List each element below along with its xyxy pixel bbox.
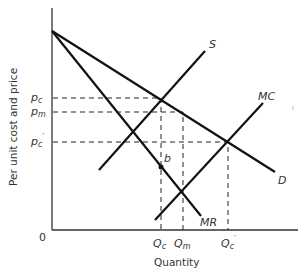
demand-label: D (278, 174, 286, 187)
price-label-pc-prime: pc′ (30, 133, 44, 149)
marginal-cost-label: MC (258, 90, 275, 103)
marginal-revenue-label: MR (200, 216, 217, 229)
price-label-pm: pm (30, 105, 46, 119)
origin-label: 0 (39, 231, 46, 244)
marginal-revenue-curve (52, 31, 201, 216)
cartel-monopoly-diagram: b S MC D MR pc pm pc′ Qc Qm Qc′ 0 Quanti… (0, 0, 308, 276)
x-axis-label: Quantity (154, 256, 199, 268)
quantity-label-Qm: Qm (174, 237, 191, 251)
supply-label: S (209, 38, 216, 51)
quantity-label-Qc-prime: Qc′ (221, 235, 236, 251)
marginal-cost-curve (155, 103, 263, 220)
price-label-pc: pc (30, 91, 43, 105)
y-axis-label: Per unit cost and price (7, 68, 19, 186)
point-b-marker (159, 165, 164, 170)
point-b-label: b (164, 152, 171, 165)
quantity-label-Qc: Qc (153, 237, 167, 251)
demand-curve (52, 31, 275, 172)
